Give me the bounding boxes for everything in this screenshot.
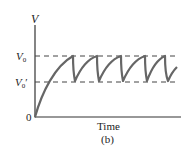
y-axis-label: V bbox=[31, 13, 38, 25]
v0-prime-label-base: V bbox=[15, 76, 22, 88]
v0-label-sub: 0 bbox=[23, 56, 27, 64]
v0-label-base: V bbox=[16, 50, 23, 62]
x-axis-label: Time bbox=[97, 121, 120, 132]
v0-prime-label-prime: ′ bbox=[25, 76, 27, 88]
origin-label: 0 bbox=[26, 112, 32, 123]
v0-label: V0 bbox=[16, 51, 26, 64]
voltage-curve bbox=[35, 56, 177, 117]
v0-prime-label: V0′ bbox=[15, 77, 28, 90]
voltage-time-diagram bbox=[0, 0, 189, 156]
figure-caption: (b) bbox=[101, 134, 114, 145]
